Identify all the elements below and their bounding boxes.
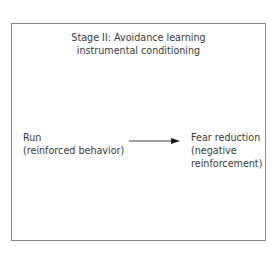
title-line-1: Stage II: Avoidance learning [11,31,266,44]
stage-title: Stage II: Avoidance learning instrumenta… [11,31,266,57]
source-node-label: Run [23,131,124,144]
target-node-sublabel-1: (negative [191,144,262,157]
title-line-2: instrumental conditioning [11,44,266,57]
target-node-sublabel-2: reinforcement) [191,157,262,170]
source-node-run: Run (reinforced behavior) [23,131,124,157]
arrow-head-icon [171,138,180,144]
target-node-label: Fear reduction [191,131,262,144]
target-node-fear-reduction: Fear reduction (negative reinforcement) [191,131,262,170]
source-node-sublabel: (reinforced behavior) [23,144,124,157]
arrow-edge [129,136,181,146]
